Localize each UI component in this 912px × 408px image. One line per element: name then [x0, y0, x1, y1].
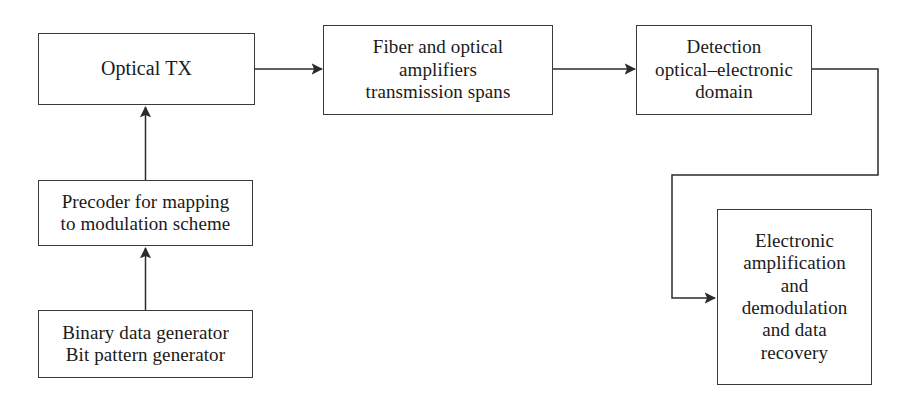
block-fiber-and-optical-amplifiers[interactable]: Fiber and optical amplifiers transmissio…: [323, 25, 553, 115]
block-detection-optical-electronic-domain-label: Detection optical–electronic domain: [651, 36, 797, 103]
block-electronic-amplification-demodulation[interactable]: Electronic amplification and demodulatio…: [717, 209, 872, 385]
block-precoder-for-mapping-label: Precoder for mapping to modulation schem…: [57, 191, 235, 236]
block-optical-tx-label: Optical TX: [97, 57, 196, 81]
block-binary-data-generator-label: Binary data generator Bit pattern genera…: [58, 322, 233, 367]
block-fiber-and-optical-amplifiers-label: Fiber and optical amplifiers transmissio…: [362, 36, 515, 103]
block-diagram: Optical TX Fiber and optical amplifiers …: [0, 0, 912, 408]
block-precoder-for-mapping[interactable]: Precoder for mapping to modulation schem…: [38, 180, 253, 246]
block-detection-optical-electronic-domain[interactable]: Detection optical–electronic domain: [636, 25, 812, 115]
block-electronic-amplification-demodulation-label: Electronic amplification and demodulatio…: [738, 230, 852, 364]
block-binary-data-generator[interactable]: Binary data generator Bit pattern genera…: [38, 310, 253, 378]
block-optical-tx[interactable]: Optical TX: [38, 33, 255, 105]
